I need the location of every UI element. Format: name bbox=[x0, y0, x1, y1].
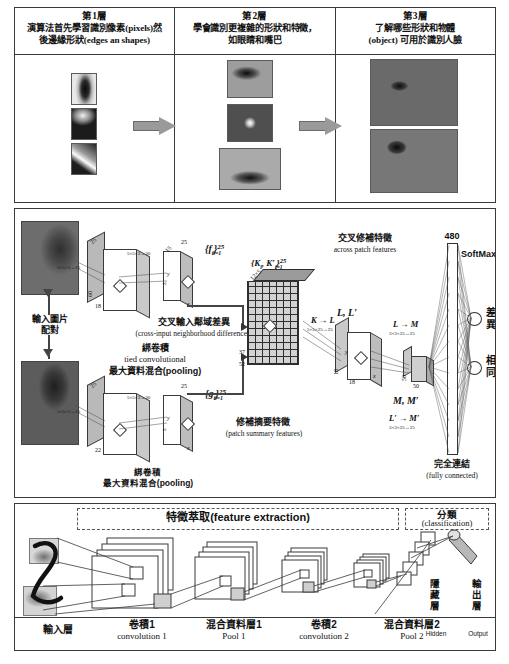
tied-conv-label-en: tied convolutional bbox=[97, 355, 213, 364]
face-thumb-1 bbox=[370, 59, 458, 126]
panel1-col-3: 第3層 了解哪些形狀和物體 (object) 可用於識別人臉 bbox=[336, 8, 495, 54]
panel1-body-col-2 bbox=[175, 55, 335, 203]
l-block-label-18: 18 bbox=[333, 369, 340, 375]
across-patch-label-cn: 交叉修補特徵 bbox=[315, 233, 415, 244]
input-thumbnail-top bbox=[29, 538, 59, 564]
panel1-col-1: 第1層 演算法首先學習識別像素(pixels)然 後邊緣形狀(edges an … bbox=[15, 8, 175, 54]
panel1-body-col-1 bbox=[15, 55, 175, 203]
max-pooling-label-bottom: 最大資料混合(pooling) bbox=[85, 478, 211, 489]
l-axis-y: y bbox=[345, 349, 348, 356]
conv-top-label-18: 18 bbox=[95, 303, 101, 310]
map-l-to-m-dims: 3×3×25→25 bbox=[389, 331, 415, 337]
g-axis-x-bottom: x bbox=[187, 445, 190, 452]
patch-summary-label-en: (patch summary features) bbox=[207, 429, 321, 438]
input-pair-label-line1: 輸入圖片 bbox=[21, 314, 79, 325]
conv1-dims-top: 5×5×3→15 bbox=[57, 265, 80, 271]
output-label-same: 相同 bbox=[485, 355, 496, 379]
panel-cnn-pipeline: 特徵萃取(feature extraction) 分類 (classificat… bbox=[14, 503, 496, 651]
input-pair-label-line2: 配對 bbox=[21, 325, 79, 336]
g-block-label-25: 25 bbox=[181, 383, 187, 390]
map-l-to-m: L → M bbox=[393, 319, 418, 330]
panel-siamese-network: 輸入圖片 配對 25 60 18 5×5×3→15 5×5×3→30 15 25… bbox=[14, 208, 496, 498]
patch-summary-label-cn: 修補摘要特徵 bbox=[211, 417, 315, 428]
hidden-char-3: 層 bbox=[430, 600, 440, 611]
edge-filter-thumb-1 bbox=[71, 73, 97, 105]
stage-convolution-1: 卷積1 convolution 1 bbox=[99, 619, 185, 642]
route-bottom-h bbox=[187, 393, 243, 395]
stage-conv1-cn: 卷積1 bbox=[99, 619, 185, 631]
tied-conv-label-cn-bottom: 綁卷積 bbox=[107, 467, 187, 478]
f-axis-z: z bbox=[161, 282, 168, 285]
part-filter-thumb-mouth bbox=[219, 148, 281, 190]
part-filter-thumb-eye bbox=[227, 60, 273, 98]
panel1-header-row: 第1層 演算法首先學習識別像素(pixels)然 後邊緣形狀(edges an … bbox=[15, 8, 495, 55]
stage-convolution-2: 卷積2 convolution 2 bbox=[281, 619, 367, 642]
arrow-right-icon-1 bbox=[133, 117, 177, 135]
output-char-1: 輸 bbox=[472, 578, 482, 589]
m-block-label-50: 50 bbox=[401, 375, 408, 381]
m-set-label: M, M′ bbox=[393, 395, 419, 406]
feature-extraction-label: 特徵萃取(feature extraction) bbox=[77, 512, 399, 523]
edge-filter-thumb-2 bbox=[71, 108, 97, 140]
output-neuron-same bbox=[467, 361, 482, 375]
conv-bottom-label-22: 22 bbox=[95, 447, 101, 454]
k-set-label: {Ki, K′i}25i=1 bbox=[251, 255, 283, 273]
part-filter-thumb-nose bbox=[227, 104, 273, 142]
layer1-title: 第1層 bbox=[18, 10, 171, 22]
f-set-label: {fi}25i=1 bbox=[205, 242, 221, 259]
hidden-char-2: 藏 bbox=[430, 589, 440, 600]
layer2-title: 第2層 bbox=[178, 10, 331, 22]
output-layer-label-en: Output bbox=[461, 630, 495, 638]
g-axis-y: y bbox=[167, 415, 170, 422]
softmax-label: SoftMax bbox=[461, 249, 496, 260]
figure-root: 第1層 演算法首先學習識別像素(pixels)然 後邊緣形狀(edges an … bbox=[0, 0, 509, 664]
input-arrow-shaft-top bbox=[48, 295, 50, 315]
stage-conv2-en: convolution 2 bbox=[281, 631, 367, 642]
k-grid-label-37: 37 bbox=[239, 349, 245, 356]
g-set-label: {gi}25i=1 bbox=[205, 387, 223, 404]
fully-connected-label-en: (fully connected) bbox=[407, 471, 496, 480]
classification-label-en: (classification) bbox=[405, 519, 489, 528]
k-grid-label-52: 52 bbox=[239, 361, 245, 368]
map-k-to-l-dims: 5×5×25→25 bbox=[307, 327, 333, 333]
layer2-desc-line2: 如眼睛和嘴巴 bbox=[178, 34, 331, 46]
input-image-top bbox=[21, 221, 79, 295]
face-thumb-2 bbox=[370, 129, 458, 193]
layer3-title: 第3層 bbox=[339, 10, 492, 22]
output-char-3: 層 bbox=[472, 600, 482, 611]
input-image-bottom bbox=[21, 361, 79, 445]
layer1-desc-line2: 後邊緣形狀(edges an shapes) bbox=[18, 34, 171, 46]
tied-conv-label-cn: 綁卷積 bbox=[97, 343, 213, 354]
fc-size-label: 480 bbox=[423, 231, 481, 242]
l-block-label-18b: 18 bbox=[349, 379, 355, 386]
panel-feature-hierarchy: 第1層 演算法首先學習識別像素(pixels)然 後邊緣形狀(edges an … bbox=[14, 7, 496, 203]
input-thumbnail-bottom bbox=[23, 586, 57, 616]
stage-pool1-en: Pool 1 bbox=[189, 631, 279, 642]
m-block-label-50b: 50 bbox=[413, 383, 419, 390]
output-layer-label-cn: 輸 出 層 bbox=[471, 578, 483, 611]
hidden-char-1: 隱 bbox=[430, 578, 440, 589]
output-neuron-different bbox=[467, 312, 482, 326]
map-l2-to-m2: L′ → M′ bbox=[389, 413, 419, 424]
stage-conv1-en: convolution 1 bbox=[99, 631, 185, 642]
fully-connected-label-cn: 完全連結 bbox=[407, 459, 496, 470]
edge-filter-thumb-3 bbox=[71, 143, 97, 175]
input-arrow-head-top bbox=[43, 289, 53, 297]
conv2-dims-top: 5×5×3→30 bbox=[127, 251, 150, 257]
f-block-label-25: 25 bbox=[181, 239, 187, 246]
g-axis-z: z bbox=[161, 428, 168, 431]
layer3-desc-line1: 了解哪些形狀和物體 bbox=[339, 22, 492, 34]
l-set-label: L, L′ bbox=[337, 307, 357, 318]
output-label-different: 差異 bbox=[485, 307, 496, 331]
map-k-to-l: K → L bbox=[311, 315, 335, 326]
panel1-body-col-3 bbox=[336, 55, 495, 203]
output-char-2: 出 bbox=[472, 589, 482, 600]
l-axis-x: x bbox=[373, 373, 376, 380]
hidden-layer-label-en: Hidden bbox=[419, 630, 453, 638]
panel1-col-2: 第2層 學會識別更複雜的形狀和特徵， 如眼睛和嘴巴 bbox=[175, 8, 335, 54]
f-axis-y: y bbox=[167, 271, 170, 278]
conv-top-width-label: 60 bbox=[87, 291, 94, 297]
across-patch-label-en: across patch features bbox=[315, 245, 415, 254]
layer3-desc-line2: (object) 可用於識別人臉 bbox=[339, 34, 492, 46]
stage-input-layer: 輸入層 bbox=[25, 624, 91, 636]
